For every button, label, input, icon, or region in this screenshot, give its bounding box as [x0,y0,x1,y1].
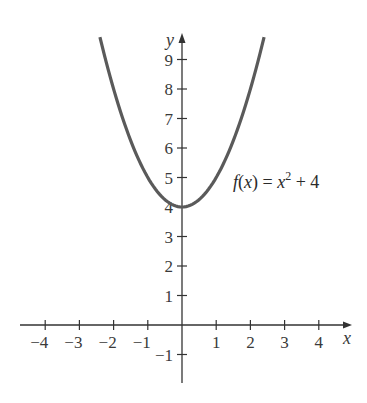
y-axis-label: y [164,30,174,50]
y-tick-label: 9 [165,51,174,70]
x-tick-label: 3 [280,333,289,352]
x-tick-label: −1 [133,333,151,352]
y-tick-label: 7 [165,110,174,129]
x-tick-label: −2 [99,333,117,352]
y-axis-arrow-icon [179,33,186,43]
function-label: f(x) = x2 + 4 [233,169,319,193]
x-tick-label: −3 [64,333,82,352]
y-tick-label: 8 [165,80,174,99]
y-tick-label: 2 [165,257,174,276]
x-tick-label: 4 [315,333,324,352]
x-axis-label: x [342,328,351,348]
y-tick-label: 1 [165,287,174,306]
x-tick-label: 1 [212,333,221,352]
x-tick-label: 2 [246,333,255,352]
y-tick-label: 5 [165,169,174,188]
y-tick-label: −1 [155,346,173,365]
y-tick-label: 6 [165,139,174,158]
function-graph: −4−3−2−11234 x −1123456789 y f(x) = x2 +… [0,0,367,403]
y-tick-label: 3 [165,228,174,247]
x-axis: −4−3−2−11234 x [20,320,352,352]
x-tick-label: −4 [30,333,49,352]
